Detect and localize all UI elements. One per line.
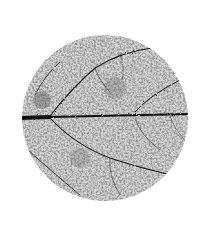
leaf-disc [0,0,209,226]
leaf-vein-graphic [0,0,209,226]
leaf-skeleton-image [0,0,209,226]
